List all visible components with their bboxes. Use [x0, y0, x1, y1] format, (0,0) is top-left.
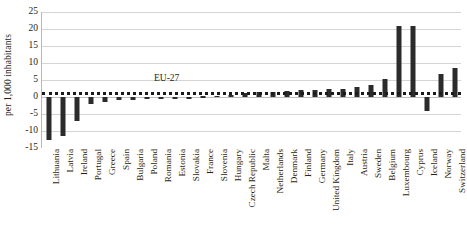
bar-slot — [322, 12, 336, 148]
x-tick-label: France — [206, 149, 215, 174]
bar-slot — [238, 12, 252, 148]
bar[interactable] — [75, 97, 80, 121]
x-tick-label: Portugal — [94, 149, 103, 180]
x-tick-label: Spain — [122, 149, 131, 170]
bar[interactable] — [425, 97, 430, 111]
bar[interactable] — [173, 97, 178, 99]
bar-slot — [140, 12, 154, 148]
x-tick-label: Greece — [108, 149, 117, 175]
y-tick-label: 0 — [33, 92, 38, 102]
plot-area: EU-27 — [41, 12, 461, 148]
bar-slot — [196, 12, 210, 148]
x-tick-label: Cyprus — [416, 149, 425, 176]
bar[interactable] — [117, 97, 122, 100]
y-tick-label: -10 — [25, 126, 38, 136]
bar-slot — [364, 12, 378, 148]
bar-slot — [280, 12, 294, 148]
bar-slot — [112, 12, 126, 148]
x-tick-label: Latvia — [66, 149, 75, 172]
x-tick-label: Slovakia — [192, 149, 201, 181]
y-axis-title-text: per 1,000 inhabitants — [3, 34, 13, 116]
y-tick-label: 15 — [29, 41, 39, 51]
bar-slot — [308, 12, 322, 148]
x-tick-label: Bulgaria — [136, 149, 145, 181]
bar-slot — [448, 12, 461, 148]
x-tick-label: United Kingdom — [332, 149, 341, 211]
bar[interactable] — [215, 96, 220, 98]
x-tick-label: Slovenia — [220, 149, 229, 181]
bar[interactable] — [159, 97, 164, 99]
x-tick-label: Poland — [150, 149, 159, 175]
bar[interactable] — [47, 97, 52, 140]
x-tick-label: Lithuania — [52, 149, 61, 184]
x-axis-tick-labels: LithuaniaLatviaIrelandPortugalGreeceSpai… — [41, 149, 461, 239]
y-tick-label: -15 — [25, 143, 38, 153]
bar-slot — [98, 12, 112, 148]
bar[interactable] — [187, 97, 192, 99]
x-tick-label: Belgium — [388, 149, 397, 181]
bar[interactable] — [131, 97, 136, 100]
y-axis-title: per 1,000 inhabitants — [0, 0, 16, 150]
bar-slot — [126, 12, 140, 148]
bar-slot — [434, 12, 448, 148]
bar-slot — [56, 12, 70, 148]
bar[interactable] — [411, 26, 416, 97]
y-axis-tick-labels: 2520151050-5-10-15 — [16, 0, 40, 150]
x-tick-label: Hungary — [234, 149, 243, 181]
y-tick-label: 5 — [33, 75, 38, 85]
eu27-reference-line — [42, 92, 461, 95]
bar-slot — [420, 12, 434, 148]
x-tick-label: Ireland — [80, 149, 89, 175]
bar[interactable] — [89, 97, 94, 104]
bars-layer — [42, 12, 461, 148]
y-tick-label: 10 — [29, 58, 39, 68]
bar-slot — [42, 12, 56, 148]
x-tick-label: Estonia — [178, 149, 187, 177]
y-tick-label: 20 — [29, 24, 39, 34]
x-tick-label: Italy — [346, 149, 355, 166]
eu27-reference-label: EU-27 — [154, 73, 179, 83]
bar-slot — [252, 12, 266, 148]
y-tick-label: 25 — [29, 7, 39, 17]
bar-slot — [378, 12, 392, 148]
x-tick-label: Switzerland — [458, 149, 467, 193]
bar-slot — [224, 12, 238, 148]
x-tick-label: Czech Republic — [248, 149, 257, 207]
x-tick-label: Norway — [444, 149, 453, 179]
x-tick-label: Luxembourg — [402, 149, 411, 196]
bar-slot — [392, 12, 406, 148]
x-tick-label: Austria — [360, 149, 369, 176]
bar-slot — [294, 12, 308, 148]
bar-slot — [182, 12, 196, 148]
bar-slot — [336, 12, 350, 148]
bar-slot — [266, 12, 280, 148]
x-tick-label: Malta — [262, 149, 271, 170]
bar-slot — [84, 12, 98, 148]
x-tick-label: Netherlands — [276, 149, 285, 193]
y-tick-label: -5 — [30, 109, 38, 119]
bar-slot — [210, 12, 224, 148]
bar[interactable] — [201, 96, 206, 98]
x-tick-label: Romania — [164, 149, 173, 182]
bar-slot — [70, 12, 84, 148]
bar[interactable] — [61, 97, 66, 136]
x-tick-label: Finland — [304, 149, 313, 177]
bar[interactable] — [145, 97, 150, 99]
x-tick-label: Germany — [318, 149, 327, 183]
x-tick-label: Denmark — [290, 149, 299, 183]
x-tick-label: Iceland — [430, 149, 439, 176]
bar[interactable] — [229, 95, 234, 97]
bar[interactable] — [397, 26, 402, 97]
bar[interactable] — [103, 97, 108, 102]
bar-slot — [406, 12, 420, 148]
x-tick-label: Sweden — [374, 149, 383, 178]
bar-slot — [350, 12, 364, 148]
